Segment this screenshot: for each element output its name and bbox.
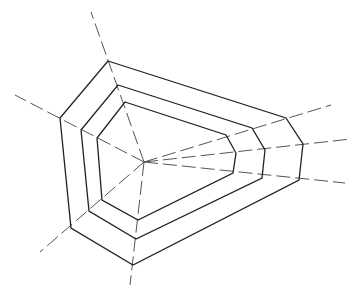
- axis-line-1: [91, 12, 144, 162]
- inner-polygon: [97, 102, 236, 220]
- axis-line-4: [144, 162, 345, 183]
- axis-line-5: [130, 162, 144, 285]
- axis-line-7: [15, 95, 144, 162]
- diagram-canvas: [0, 0, 363, 299]
- axis-line-3: [144, 139, 351, 162]
- concentric-polygons: [60, 61, 303, 265]
- outer-polygon: [60, 61, 303, 265]
- axis-line-2: [144, 105, 331, 162]
- radial-axes: [15, 12, 351, 285]
- axis-line-6: [40, 162, 144, 252]
- radar-diagram: [0, 0, 363, 299]
- middle-polygon: [81, 85, 265, 239]
